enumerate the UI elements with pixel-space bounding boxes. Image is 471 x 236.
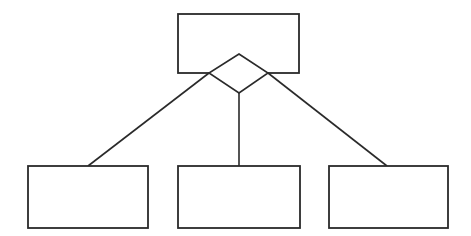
child-box-1 [28,166,148,228]
relationship-diamond [209,54,268,93]
diagram-canvas [0,0,471,236]
hierarchy-diagram [0,0,471,236]
connector-line-1 [88,73,209,166]
child-box-2 [178,166,300,228]
connector-line-3 [268,73,387,166]
child-box-3 [329,166,448,228]
